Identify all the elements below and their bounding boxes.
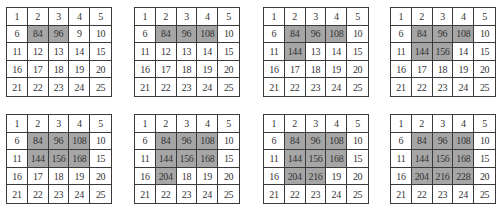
- grid-cell: 1: [135, 115, 156, 133]
- highlighted-cell: 144: [412, 150, 433, 168]
- grid-cell: 3: [49, 8, 70, 26]
- grid-cell: 24: [453, 185, 474, 203]
- grid-cell: 16: [391, 61, 412, 79]
- highlighted-cell: 228: [453, 168, 474, 186]
- grid-cell: 17: [285, 61, 306, 79]
- grid-cell: 22: [156, 78, 177, 96]
- grid-cell: 18: [49, 168, 70, 186]
- grid-cell: 17: [28, 61, 49, 79]
- grid-cell: 25: [474, 78, 495, 96]
- grid-cell: 19: [69, 168, 90, 186]
- grid-cell: 3: [306, 8, 327, 26]
- grid-cell: 22: [285, 185, 306, 203]
- grid-cell: 3: [177, 8, 198, 26]
- grid-cell: 1: [7, 115, 28, 133]
- grid-cell: 24: [69, 185, 90, 203]
- grid-cell: 10: [474, 133, 495, 151]
- grid-cell: 4: [69, 115, 90, 133]
- highlighted-cell: 204: [285, 168, 306, 186]
- grid-cell: 25: [218, 185, 239, 203]
- grid-3: 1234568496108101114413141516171819202122…: [263, 7, 369, 97]
- grid-cell: 23: [306, 185, 327, 203]
- grid-cell: 6: [391, 26, 412, 44]
- grid-cell: 2: [285, 115, 306, 133]
- grid-cell: 13: [49, 43, 70, 61]
- grid-cell: 17: [412, 61, 433, 79]
- grid-7: 1234568496108101114415616815162042161920…: [263, 114, 369, 204]
- grid-cell: 20: [347, 61, 368, 79]
- grid-cell: 22: [28, 185, 49, 203]
- grid-cell: 5: [474, 115, 495, 133]
- grid-cell: 3: [433, 115, 454, 133]
- grid-cell: 2: [28, 8, 49, 26]
- grid-cell: 19: [326, 61, 347, 79]
- highlighted-cell: 96: [177, 133, 198, 151]
- grid-cell: 16: [391, 168, 412, 186]
- grid-cell: 24: [69, 78, 90, 96]
- highlighted-cell: 156: [49, 150, 70, 168]
- grid-cell: 21: [264, 78, 285, 96]
- grid-cell: 2: [156, 8, 177, 26]
- highlighted-cell: 84: [412, 133, 433, 151]
- grid-cell: 18: [177, 168, 198, 186]
- grid-6: 1234568496108101114415616815162041819202…: [134, 114, 240, 204]
- grid-cell: 21: [7, 185, 28, 203]
- grid-cell: 17: [156, 61, 177, 79]
- grid-cell: 20: [218, 168, 239, 186]
- grid-cell: 17: [28, 168, 49, 186]
- grid-cell: 15: [90, 43, 111, 61]
- grid-cell: 10: [90, 26, 111, 44]
- grid-cell: 18: [49, 61, 70, 79]
- grid-cell: 3: [306, 115, 327, 133]
- grid-cell: 24: [326, 185, 347, 203]
- highlighted-cell: 156: [433, 43, 454, 61]
- grid-cell: 22: [28, 78, 49, 96]
- grid-cell: 1: [264, 8, 285, 26]
- grid-cell: 10: [218, 133, 239, 151]
- grid-cell: 19: [326, 168, 347, 186]
- highlighted-cell: 84: [285, 26, 306, 44]
- highlighted-cell: 144: [156, 150, 177, 168]
- grid-2: 1234568496108101112131415161718192021222…: [134, 7, 240, 97]
- highlighted-cell: 144: [285, 43, 306, 61]
- grid-cell: 20: [474, 168, 495, 186]
- grid-cell: 21: [391, 185, 412, 203]
- grid-cell: 25: [218, 78, 239, 96]
- grid-cell: 11: [391, 43, 412, 61]
- grid-cell: 1: [391, 8, 412, 26]
- highlighted-cell: 168: [326, 150, 347, 168]
- grid-cell: 25: [474, 185, 495, 203]
- grid-cell: 5: [347, 115, 368, 133]
- grid-cell: 19: [197, 168, 218, 186]
- highlighted-cell: 96: [49, 133, 70, 151]
- grid-cell: 11: [264, 150, 285, 168]
- grid-cell: 24: [197, 78, 218, 96]
- grid-cell: 4: [326, 115, 347, 133]
- grid-cell: 6: [391, 133, 412, 151]
- grid-cell: 15: [90, 150, 111, 168]
- grid-1: 1234568496910111213141516171819202122232…: [6, 7, 112, 97]
- grid-cell: 23: [306, 78, 327, 96]
- grid-cell: 4: [453, 8, 474, 26]
- highlighted-cell: 108: [453, 26, 474, 44]
- grid-cell: 15: [474, 150, 495, 168]
- grid-cell: 15: [347, 43, 368, 61]
- highlighted-cell: 144: [28, 150, 49, 168]
- grid-cell: 6: [135, 26, 156, 44]
- grid-cell: 4: [326, 8, 347, 26]
- grid-cell: 22: [156, 185, 177, 203]
- grid-cell: 4: [197, 115, 218, 133]
- grid-cell: 18: [306, 61, 327, 79]
- grid-cell: 11: [264, 43, 285, 61]
- grid-cell: 4: [69, 8, 90, 26]
- grid-cell: 4: [453, 115, 474, 133]
- grid-cell: 20: [218, 61, 239, 79]
- grid-cell: 23: [433, 78, 454, 96]
- highlighted-cell: 216: [306, 168, 327, 186]
- grid-cell: 13: [177, 43, 198, 61]
- grid-cell: 24: [197, 185, 218, 203]
- grid-cell: 19: [453, 61, 474, 79]
- highlighted-cell: 156: [177, 150, 198, 168]
- grid-cell: 6: [264, 133, 285, 151]
- grid-cell: 20: [474, 61, 495, 79]
